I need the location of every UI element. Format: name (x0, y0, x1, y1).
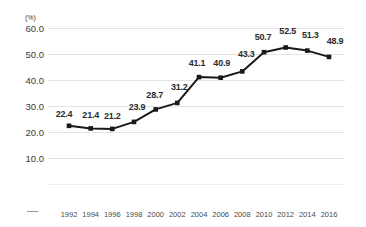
data-point-label: 48.9 (327, 36, 344, 46)
x-axis-tick-label: 1992 (61, 210, 78, 219)
data-point-label: 28.7 (146, 90, 163, 100)
x-axis-tick-label: 2002 (169, 210, 186, 219)
data-point-marker (175, 101, 180, 106)
data-point-marker (283, 45, 288, 50)
x-axis-tick-label: 2008 (234, 210, 251, 219)
data-point-label: 22.4 (56, 109, 73, 119)
x-axis-tick-label: 2004 (191, 210, 208, 219)
x-axis-tick-label: 1998 (126, 210, 143, 219)
data-point-marker (132, 120, 137, 125)
data-point-label: 31.2 (171, 82, 188, 92)
data-point-label: 52.5 (279, 26, 296, 36)
data-point-marker (88, 126, 93, 131)
legend-dash-icon (27, 211, 38, 213)
data-point-marker (110, 127, 115, 132)
data-point-label: 23.9 (129, 102, 146, 112)
x-axis-tick-label: 2000 (147, 210, 164, 219)
data-point-label: 51.3 (302, 30, 319, 40)
data-point-label: 40.9 (213, 58, 230, 68)
data-point-marker (262, 50, 267, 55)
data-point-label: 43.3 (238, 49, 255, 59)
line-chart: (%) 60.050.040.030.020.010.0 22.421.421.… (0, 0, 366, 227)
data-point-marker (305, 48, 310, 53)
data-point-marker (153, 107, 158, 112)
data-point-marker (218, 75, 223, 80)
data-point-label: 41.1 (189, 58, 206, 68)
x-axis-tick-label: 2006 (212, 210, 229, 219)
data-point-marker (197, 75, 202, 80)
data-point-marker (240, 69, 245, 74)
x-axis-tick-label: 2012 (277, 210, 294, 219)
x-axis-tick-label: 2010 (256, 210, 273, 219)
data-point-marker (327, 55, 332, 60)
x-axis-tick-label: 1994 (82, 210, 99, 219)
x-axis-tick-label: 2014 (299, 210, 316, 219)
data-point-marker (67, 124, 72, 129)
x-axis-tick-label: 2016 (321, 210, 338, 219)
data-point-label: 21.4 (82, 110, 99, 120)
data-point-label: 50.7 (255, 32, 272, 42)
data-point-label: 21.2 (104, 111, 121, 121)
x-axis-tick-label: 1996 (104, 210, 121, 219)
